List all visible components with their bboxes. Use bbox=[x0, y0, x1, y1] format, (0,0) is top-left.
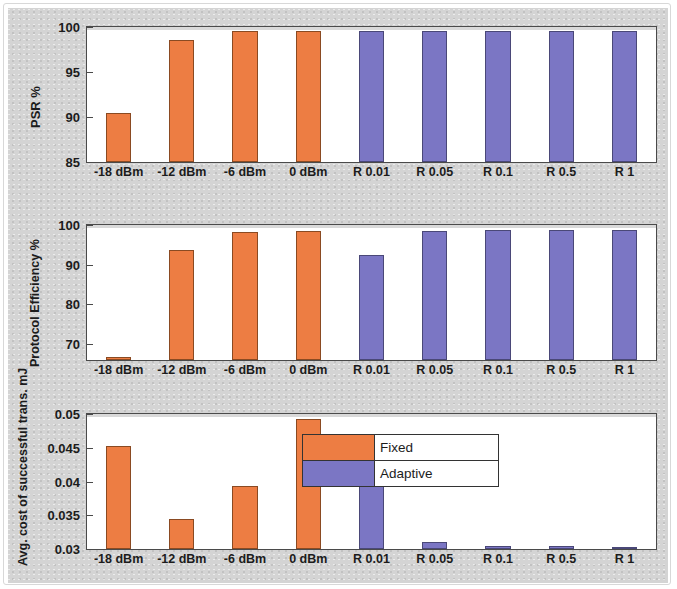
bar-adaptive-5 bbox=[422, 231, 447, 360]
x-tick-label: -12 dBm bbox=[157, 552, 206, 566]
y-tick-mark bbox=[87, 117, 93, 118]
panel-psr: PSR % 859095100 -18 dBm-12 dBm-6 dBm0 dB… bbox=[0, 0, 677, 195]
x-tick-label: -18 dBm bbox=[94, 552, 143, 566]
x-tick-label: R 0.5 bbox=[546, 552, 576, 566]
y-tick-mark bbox=[87, 265, 93, 266]
bar-adaptive-8 bbox=[612, 547, 637, 549]
bar-adaptive-7 bbox=[549, 230, 574, 360]
bar-adaptive-5 bbox=[422, 31, 447, 162]
y-tick-label: 90 bbox=[66, 110, 87, 125]
bar-fixed-2 bbox=[232, 31, 257, 162]
bar-fixed-2 bbox=[232, 486, 257, 549]
legend-label-adaptive: Adaptive bbox=[375, 461, 498, 486]
x-tick-label: 0 dBm bbox=[289, 363, 327, 377]
y-tick-label: 0.03 bbox=[55, 542, 87, 557]
x-tick-label: R 0.1 bbox=[483, 363, 513, 377]
y-tick-mark bbox=[87, 414, 93, 415]
panel-avg-cost: Avg. cost of successful trans. mJ 0.030.… bbox=[0, 390, 677, 589]
bar-adaptive-4 bbox=[359, 31, 384, 162]
bar-fixed-1 bbox=[169, 519, 194, 549]
y-tick-label: 0.035 bbox=[47, 508, 87, 523]
bar-adaptive-5 bbox=[422, 542, 447, 549]
y-tick-label: 0.04 bbox=[55, 474, 87, 489]
y-tick-label: 100 bbox=[58, 20, 87, 35]
bar-adaptive-8 bbox=[612, 230, 637, 360]
bar-adaptive-7 bbox=[549, 546, 574, 549]
x-tick-label: -6 dBm bbox=[224, 552, 266, 566]
x-tick-label: R 0.05 bbox=[416, 552, 453, 566]
bar-fixed-0 bbox=[106, 113, 131, 162]
y-tick-mark bbox=[87, 448, 93, 449]
bar-adaptive-8 bbox=[612, 31, 637, 162]
y-tick-mark bbox=[87, 515, 93, 516]
y-tick-mark bbox=[87, 225, 93, 226]
y-tick-mark bbox=[87, 549, 93, 550]
x-tick-label: R 0.01 bbox=[353, 552, 390, 566]
x-tick-label: -18 dBm bbox=[94, 165, 143, 179]
x-tick-label: R 0.05 bbox=[416, 165, 453, 179]
bar-adaptive-6 bbox=[485, 230, 510, 360]
y-tick-mark bbox=[87, 304, 93, 305]
y-tick-mark bbox=[87, 344, 93, 345]
bar-adaptive-7 bbox=[549, 31, 574, 162]
bar-fixed-2 bbox=[232, 232, 257, 360]
bar-fixed-0 bbox=[106, 446, 131, 549]
bar-adaptive-6 bbox=[485, 31, 510, 162]
x-tick-label: R 0.05 bbox=[416, 363, 453, 377]
x-tick-label: R 0.5 bbox=[546, 363, 576, 377]
y-tick-label: 95 bbox=[66, 65, 87, 80]
legend-label-fixed: Fixed bbox=[375, 435, 498, 460]
plot-area-avg-cost: 0.030.0350.040.0450.05 -18 dBm-12 dBm-6 … bbox=[86, 413, 657, 550]
y-tick-label: 85 bbox=[66, 155, 87, 170]
bar-series-psr bbox=[87, 27, 656, 162]
x-tick-label: -18 dBm bbox=[94, 363, 143, 377]
x-tick-label: R 0.01 bbox=[353, 363, 390, 377]
x-tick-label: 0 dBm bbox=[289, 165, 327, 179]
axis-label-psr: PSR % bbox=[28, 86, 43, 128]
x-tick-label: -12 dBm bbox=[157, 363, 206, 377]
bar-adaptive-4 bbox=[359, 255, 384, 360]
axis-label-avg-cost: Avg. cost of successful trans. mJ bbox=[16, 368, 30, 566]
x-tick-label: -6 dBm bbox=[224, 165, 266, 179]
x-tick-label: 0 dBm bbox=[289, 552, 327, 566]
y-tick-label: 0.045 bbox=[47, 440, 87, 455]
y-tick-mark bbox=[87, 72, 93, 73]
y-tick-mark bbox=[87, 27, 93, 28]
x-tick-label: R 0.01 bbox=[353, 165, 390, 179]
x-tick-label: R 1 bbox=[615, 552, 634, 566]
bar-fixed-1 bbox=[169, 250, 194, 360]
x-tick-label: R 0.1 bbox=[483, 552, 513, 566]
bar-fixed-3 bbox=[296, 231, 321, 360]
figure-canvas: PSR % 859095100 -18 dBm-12 dBm-6 dBm0 dB… bbox=[0, 0, 677, 589]
bar-fixed-3 bbox=[296, 31, 321, 162]
x-tick-label: -12 dBm bbox=[157, 165, 206, 179]
y-tick-label: 100 bbox=[58, 218, 87, 233]
x-tick-label: R 1 bbox=[615, 165, 634, 179]
legend-entry-adaptive: Adaptive bbox=[303, 460, 498, 486]
bar-adaptive-6 bbox=[485, 546, 510, 549]
bar-fixed-1 bbox=[169, 40, 194, 162]
y-tick-label: 0.05 bbox=[55, 407, 87, 422]
y-tick-label: 70 bbox=[66, 337, 87, 352]
bar-series-protocol-efficiency bbox=[87, 225, 656, 360]
panel-protocol-efficiency: Protocol Efficiency % 708090100 -18 dBm-… bbox=[0, 195, 677, 390]
y-tick-label: 80 bbox=[66, 297, 87, 312]
legend-swatch-fixed bbox=[303, 435, 375, 460]
x-tick-label: R 0.1 bbox=[483, 165, 513, 179]
x-tick-label: R 1 bbox=[615, 363, 634, 377]
plot-area-psr: 859095100 -18 dBm-12 dBm-6 dBm0 dBmR 0.0… bbox=[86, 26, 657, 163]
axis-label-protocol-efficiency: Protocol Efficiency % bbox=[28, 239, 42, 367]
x-tick-label: R 0.5 bbox=[546, 165, 576, 179]
y-tick-mark bbox=[87, 482, 93, 483]
x-tick-label: -6 dBm bbox=[224, 363, 266, 377]
bar-fixed-0 bbox=[106, 357, 131, 360]
plot-area-protocol-efficiency: 708090100 -18 dBm-12 dBm-6 dBm0 dBmR 0.0… bbox=[86, 224, 657, 361]
y-tick-label: 90 bbox=[66, 257, 87, 272]
y-tick-mark bbox=[87, 162, 93, 163]
legend-swatch-adaptive bbox=[303, 461, 375, 486]
chart-legend: Fixed Adaptive bbox=[302, 434, 499, 487]
legend-entry-fixed: Fixed bbox=[303, 435, 498, 460]
